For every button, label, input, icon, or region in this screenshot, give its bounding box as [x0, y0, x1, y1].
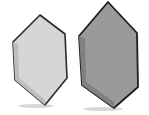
shadow-right: [83, 107, 123, 111]
light-hexagon: [13, 15, 67, 105]
shadow-left: [18, 104, 54, 108]
dark-hexagon: [79, 2, 138, 108]
gem-illustration: [0, 0, 149, 115]
